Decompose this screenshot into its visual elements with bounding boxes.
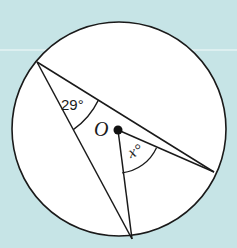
center-label-o: O xyxy=(94,119,108,139)
geometry-diagram xyxy=(0,0,237,248)
center-dot xyxy=(114,126,123,135)
angle-label-29: 29° xyxy=(61,97,84,112)
